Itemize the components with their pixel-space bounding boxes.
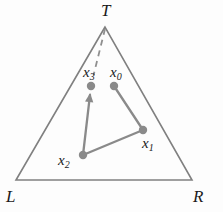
point-label-x3-base: x xyxy=(83,64,90,80)
simplex-diagram: T L R x0 x1 x2 x3 xyxy=(0,0,223,212)
point-label-x2-base: x xyxy=(58,152,65,168)
vertex-label-top: T xyxy=(101,2,110,19)
point-x2 xyxy=(79,151,87,159)
point-label-x1: x1 xyxy=(142,136,154,151)
point-label-x0: x0 xyxy=(110,65,122,80)
triangle-outline xyxy=(16,27,192,180)
point-label-x0-sub: 0 xyxy=(117,71,122,82)
point-label-x3: x3 xyxy=(83,65,95,80)
vertex-label-bottom-left: L xyxy=(6,188,15,205)
point-x1 xyxy=(139,126,147,134)
vertex-label-bottom-right: R xyxy=(193,188,203,205)
point-x3 xyxy=(87,82,95,90)
point-label-x1-sub: 1 xyxy=(149,142,154,153)
point-label-x3-sub: 3 xyxy=(90,71,95,82)
diagram-canvas xyxy=(0,0,223,212)
point-label-x1-base: x xyxy=(142,135,149,151)
point-label-x0-base: x xyxy=(110,64,117,80)
point-label-x2: x2 xyxy=(58,153,70,168)
iterate-path xyxy=(83,86,143,155)
point-label-x2-sub: 2 xyxy=(65,159,70,170)
point-x0 xyxy=(110,82,118,90)
